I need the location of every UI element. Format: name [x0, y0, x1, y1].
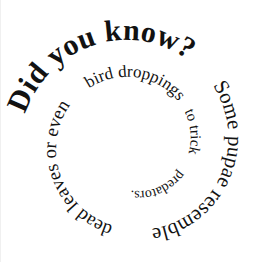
spiral-segment-label: to trick [181, 106, 203, 156]
spiral-text-graphic: Did you know?Some pupae resembledead lea… [0, 0, 265, 262]
spiral-segment-label: dead leaves or even [39, 95, 114, 241]
did-you-know-spiral-image: Did you know?Some pupae resembledead lea… [0, 0, 265, 262]
spiral-segment-label: predators. [129, 168, 189, 203]
spiral-segment-seg-to-trick: to trick [181, 106, 203, 156]
spiral-segment-label: bird droppings [81, 61, 190, 104]
spiral-segment-label: Some pupae resemble [150, 76, 248, 248]
spiral-segment-seg-some-pupae-resemble: Some pupae resemble [150, 76, 248, 248]
spiral-text-group: Did you know?Some pupae resembledead lea… [0, 13, 248, 248]
spiral-segment-seg-dead-leaves-or-even: dead leaves or even [39, 95, 114, 241]
spiral-segment-seg-bird-droppings: bird droppings [81, 61, 190, 104]
spiral-segment-seg-predators: predators. [129, 168, 189, 203]
